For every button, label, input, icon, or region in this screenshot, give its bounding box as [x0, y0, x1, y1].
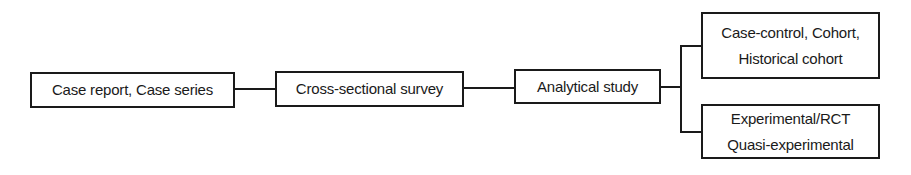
node-cross-sectional-survey-label: Cross-sectional survey: [296, 76, 443, 102]
connector-cross-sectional-to-analytical: [464, 87, 514, 89]
node-case-control-cohort-line-2: Historical cohort: [738, 46, 842, 72]
node-case-control-cohort: Case-control, Cohort, Historical cohort: [701, 12, 880, 79]
connector-analytical-to-branch: [661, 86, 681, 88]
node-case-control-cohort-line-1: Case-control, Cohort,: [721, 20, 859, 46]
connector-branch-vertical: [680, 45, 682, 133]
node-cross-sectional-survey: Cross-sectional survey: [275, 71, 464, 107]
node-analytical-study: Analytical study: [514, 69, 661, 104]
connector-branch-to-observational: [680, 45, 701, 47]
node-case-report: Case report, Case series: [30, 72, 235, 108]
node-experimental-line-1: Experimental/RCT: [731, 106, 850, 132]
connector-case-report-to-cross-sectional: [235, 88, 275, 90]
node-experimental: Experimental/RCT Quasi-experimental: [701, 104, 880, 159]
node-case-report-label: Case report, Case series: [52, 77, 213, 103]
node-analytical-study-label: Analytical study: [537, 74, 638, 100]
node-experimental-line-2: Quasi-experimental: [727, 132, 853, 158]
connector-branch-to-experimental: [680, 131, 701, 133]
